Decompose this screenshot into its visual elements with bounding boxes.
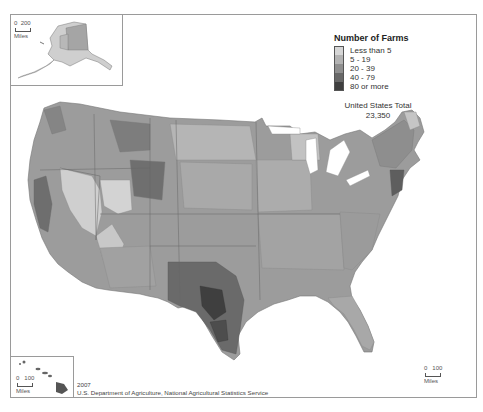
legend-swatch — [334, 82, 344, 91]
alaska-scale-bar: 0 200 Miles — [14, 20, 31, 40]
scale-bar-line — [425, 373, 441, 377]
scale-distance: 200 — [21, 20, 31, 26]
source-year: 2007 — [77, 381, 268, 389]
scale-bar-line — [17, 383, 33, 387]
legend-title: Number of Farms — [334, 33, 409, 43]
source-note: 2007 U.S. Department of Agriculture, Nat… — [77, 381, 268, 396]
legend-swatch — [334, 73, 344, 82]
legend-item: 80 or more — [334, 82, 409, 91]
scale-unit: Miles — [16, 388, 34, 395]
hawaii-scale-bar: 0 100 Miles — [16, 375, 34, 395]
legend-label: 80 or more — [350, 82, 389, 91]
legend-label: 20 - 39 — [350, 64, 375, 73]
conus-map — [28, 102, 424, 360]
us-total-label: United States Total — [336, 101, 420, 111]
legend-item: 20 - 39 — [334, 64, 409, 73]
us-total-value: 23,350 — [336, 111, 420, 121]
legend-item: 40 - 79 — [334, 73, 409, 82]
conus-scale-bar: 0 100 Miles — [424, 365, 442, 385]
legend-label: 40 - 79 — [350, 73, 375, 82]
scale-unit: Miles — [424, 378, 442, 385]
legend-swatch — [334, 55, 344, 64]
legend-swatch — [334, 46, 344, 55]
scale-distance: 100 — [24, 375, 34, 381]
scale-zero: 0 — [424, 365, 427, 371]
legend: Number of Farms Less than 5 5 - 19 20 - … — [334, 33, 409, 91]
scale-zero: 0 — [14, 20, 17, 26]
legend-label: 5 - 19 — [350, 55, 370, 64]
scale-zero: 0 — [16, 375, 19, 381]
legend-swatch — [334, 64, 344, 73]
legend-item: Less than 5 — [334, 46, 409, 55]
scale-unit: Miles — [14, 33, 31, 40]
source-agency: U.S. Department of Agriculture, National… — [77, 389, 268, 397]
legend-item: 5 - 19 — [334, 55, 409, 64]
legend-label: Less than 5 — [350, 46, 391, 55]
scale-bar-line — [15, 28, 31, 32]
us-total: United States Total 23,350 — [336, 101, 420, 121]
scale-distance: 100 — [432, 365, 442, 371]
